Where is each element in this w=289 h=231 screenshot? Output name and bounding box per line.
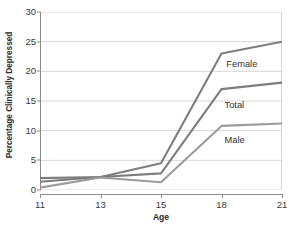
line-chart-svg (40, 12, 282, 190)
y-tick-label: 15 (14, 96, 36, 106)
plot-area: FemaleTotalMale (40, 12, 282, 190)
chart-figure: Percentage Clinically Depressed 05101520… (0, 0, 289, 231)
y-tick-label: 5 (14, 156, 36, 166)
x-tick-label: 15 (156, 200, 167, 210)
y-tick-label: 30 (14, 7, 36, 17)
x-axis-line (40, 194, 282, 195)
x-tick-label: 13 (95, 200, 106, 210)
y-tick-label: 25 (14, 37, 36, 47)
series-label-total: Total (225, 101, 245, 110)
x-tick-label: 11 (35, 200, 45, 210)
series-label-female: Female (226, 60, 257, 69)
x-tick-label: 18 (216, 200, 227, 210)
x-tick-label: 21 (277, 200, 288, 210)
series-label-male: Male (225, 136, 245, 145)
y-tick-label: 10 (14, 126, 36, 136)
x-axis-tick-labels: 1113151821 (0, 194, 289, 208)
series-line-total (40, 83, 282, 182)
x-tick-mark (282, 194, 283, 198)
y-tick-label: 20 (14, 67, 36, 77)
x-axis-title: Age (40, 212, 282, 222)
